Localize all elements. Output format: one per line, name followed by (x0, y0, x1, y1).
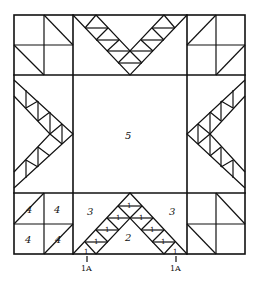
label-corner-4-c: 4 (24, 234, 31, 245)
label-center: 5 (125, 130, 131, 141)
label-chevron-1-apex: 1 (127, 202, 131, 210)
label-1a-left: 1A (81, 264, 92, 273)
label-triangle-3-right: 3 (169, 206, 175, 217)
label-1a-right: 1A (170, 264, 181, 273)
label-chevron-1-l2: 1 (105, 226, 109, 234)
corner-unit-top-right (187, 15, 245, 75)
label-chevron-1-r3: 1 (161, 238, 165, 246)
chevron-right (187, 80, 245, 188)
label-triangle-2: 2 (124, 232, 131, 243)
chevron-left (14, 80, 73, 188)
label-chevron-1-l4: 1 (84, 248, 88, 256)
chevron-top (73, 15, 187, 75)
corner-unit-bottom-left (14, 193, 73, 254)
corner-unit-top-left (14, 15, 73, 75)
label-chevron-1-l3: 1 (94, 238, 98, 246)
label-chevron-1-r1: 1 (139, 214, 143, 222)
label-triangle-3-left: 3 (87, 206, 93, 217)
label-chevron-1-r4: 1 (173, 248, 177, 256)
piece-labels: 5 2 3 3 4 4 4 4 1 1 1 1 1 1 1 1 1 1A 1A (24, 130, 181, 273)
label-corner-4-a: 4 (25, 204, 32, 215)
label-chevron-1-r2: 1 (150, 226, 154, 234)
label-chevron-1-l1: 1 (116, 214, 120, 222)
quilt-block-diagram: 5 2 3 3 4 4 4 4 1 1 1 1 1 1 1 1 1 1A 1A (0, 0, 259, 281)
label-corner-4-b: 4 (53, 204, 60, 215)
corner-unit-bottom-right (187, 193, 245, 254)
label-corner-4-d: 4 (54, 234, 61, 245)
